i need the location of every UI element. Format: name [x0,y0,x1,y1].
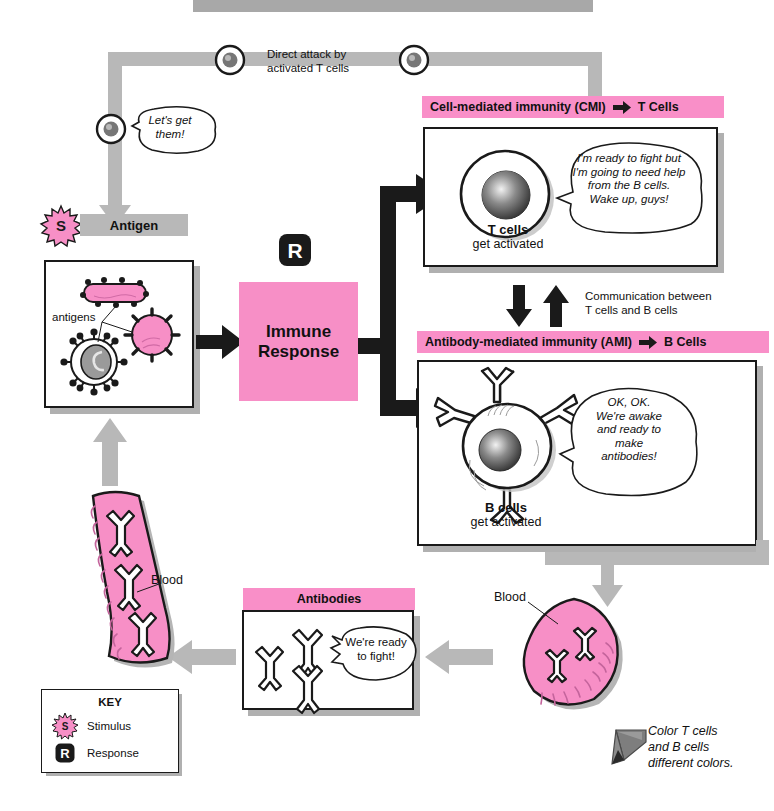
virus-particle [61,329,126,394]
stimulus-starburst-icon: S [52,713,78,739]
key-label-response: Response [87,747,139,759]
ami-header: Antibody-mediated immunity (AMI) B Cells [417,331,769,353]
antibodies-bubble-text: We're ready to fight! [340,636,412,664]
immune-response-badge: R [278,233,312,267]
antibodies-header-text: Antibodies [297,592,362,606]
right-arrow-icon [613,101,631,114]
immune-response-box: Immune Response [239,282,358,401]
arrow-antigen-to-response [196,325,244,359]
key-item-stimulus: S Stimulus [52,713,178,739]
communication-arrow-down [506,285,532,327]
arrow-blood-to-antigen [93,418,127,486]
key-item-response: R Response [55,743,178,763]
antigen-title: Antigen [80,214,188,236]
svg-text:S: S [56,217,66,234]
svg-text:R: R [60,746,70,761]
key-box: KEY S Stimulus R Response [41,689,179,773]
feedback-path-right-vertical [588,52,602,100]
antibodies-bubble-line-2: to fight! [340,650,412,664]
response-badge-icon: R [55,743,75,763]
antigens-inner-label: antigens [52,311,95,325]
immune-response-line-2: Response [258,342,339,362]
ami-header-target: B Cells [664,335,706,349]
b-cell-bubble-line-2: We're awake [568,410,690,424]
ami-to-blood-path-down [601,552,614,588]
key-label-stimulus: Stimulus [87,720,131,732]
rod-bacterium [80,277,149,308]
t-cells-caption-bold: T cells [488,222,528,237]
b-cells-caption: B cells get activated [446,500,566,529]
direct-attack-label: Direct attack by activated T cells [267,48,407,76]
svg-text:R: R [287,239,302,262]
ami-header-text: Antibody-mediated immunity (AMI) [425,335,632,349]
ami-to-blood-path-right-vertical [756,540,769,565]
immune-response-line-1: Immune [266,322,331,342]
antigen-box [44,260,194,408]
communication-line-1: Communication between [585,290,765,304]
antigen-stimulus-badge: S [40,205,82,247]
lets-get-them-line-1: Let's get [128,114,212,128]
communication-arrow-up [543,285,569,327]
t-cell-marker-1 [215,45,245,75]
antibodies-bubble-line-1: We're ready [340,636,412,650]
lets-get-them-text: Let's get them! [128,114,212,141]
communication-label: Communication between T cells and B cell… [585,290,765,318]
crayon-note-line-2: and B cells [648,739,774,755]
communication-line-2: T cells and B cells [585,304,765,318]
top-page-banner [193,0,593,12]
ami-to-blood-path-horizontal [545,552,769,565]
t-cell-bubble-line-2: I'm going to need help [562,166,696,180]
b-cell-bubble-text: OK, OK. We're awake and ready to make an… [568,396,690,464]
blood-right-label: Blood [494,590,526,604]
blood-left-leader [137,570,161,592]
t-cells-caption: T cells get activated [448,222,568,251]
crayon-note-line-1: Color T cells [648,723,774,739]
right-arrow-icon [639,336,657,349]
antibodies-header: Antibodies [243,588,415,610]
b-cells-caption-bold: B cells [485,500,527,515]
b-cell-bubble-line-4: make [568,437,690,451]
t-cell-bubble-text: I'm ready to fight but I'm going to need… [562,152,696,206]
crayon-note-line-3: different colors. [648,755,774,771]
t-cell-bubble-line-4: Wake up, guys! [562,193,696,207]
round-pathogen [125,309,179,361]
b-cell-bubble-line-3: and ready to [568,423,690,437]
lets-get-them-line-2: them! [128,128,212,142]
key-title: KEY [42,696,178,708]
cmi-header-text: Cell-mediated immunity (CMI) [430,100,606,114]
direct-attack-line-1: Direct attack by [267,48,407,62]
crayon-icon [602,730,646,766]
direct-attack-line-2: activated T cells [267,62,407,76]
b-cells-caption-normal: get activated [471,515,542,529]
arrow-blood-to-antibodies [425,640,493,674]
cmi-header: Cell-mediated immunity (CMI) T Cells [422,96,724,118]
blood-right-leader [528,602,562,626]
t-cell-bubble-line-3: from the B cells. [562,179,696,193]
b-cell-bubble-line-5: antibodies! [568,450,690,464]
crayon-note-text: Color T cells and B cells different colo… [648,723,774,771]
svg-text:S: S [62,721,69,732]
t-cell-bubble-line-1: I'm ready to fight but [562,152,696,166]
b-cell-bubble-line-1: OK, OK. [568,396,690,410]
t-cells-caption-normal: get activated [473,237,544,251]
cmi-header-target: T Cells [638,100,679,114]
